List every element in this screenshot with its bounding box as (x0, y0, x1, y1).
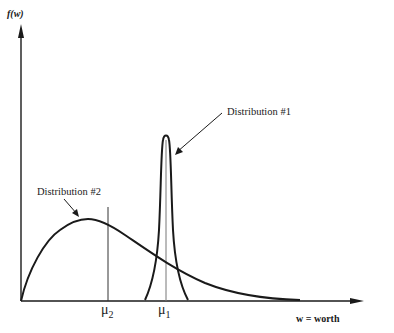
mu-2-symbol: μ (101, 302, 109, 317)
distribution-diagram (0, 0, 394, 333)
mu-1-subscript: 1 (166, 309, 171, 320)
mu-2-subscript: 2 (109, 309, 114, 320)
mu-1-symbol: μ (158, 302, 166, 317)
y-axis-label: f(w) (7, 9, 24, 19)
mu-2-label: μ2 (101, 303, 114, 320)
distribution-1-label: Distribution #1 (227, 107, 291, 118)
distribution-2-label: Distribution #2 (37, 187, 101, 198)
distribution-2-curve (21, 219, 300, 301)
x-axis-arrow-icon (350, 298, 364, 304)
mu-1-label: μ1 (158, 303, 171, 320)
distribution-1-leader (177, 113, 222, 152)
x-axis-label: w = worth (296, 314, 339, 324)
y-axis-arrow-icon (18, 24, 24, 38)
